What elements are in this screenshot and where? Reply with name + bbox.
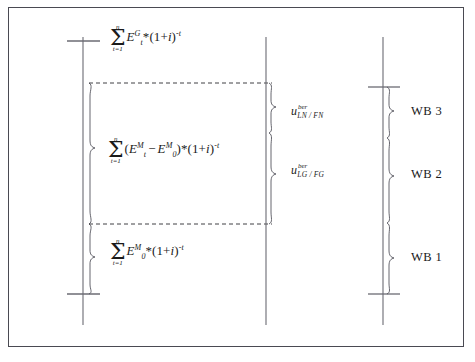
u-subscript: LG / FG [297,170,324,179]
left-brace-lower [89,224,95,294]
term-superscript: M [135,243,142,252]
term2-superscript: M [166,141,173,150]
discount-exponent: -t [214,141,219,150]
left-brace-upper [89,83,95,224]
u-superscript: ber [298,162,307,170]
formula-middle: n Σ t=1 (EMt−EM0)*(1+i)-t [108,136,219,165]
u-label-ln-fn: uberLN / FN [291,104,332,119]
discount-factor-open: *(1+ [143,29,168,44]
minus-operator: − [148,141,155,156]
wb-label-2: WB 2 [411,167,442,182]
sigma-glyph: Σ [110,244,126,260]
diagram-lines [0,0,475,362]
summation-symbol-bottom: n Σ t=1 [110,238,126,267]
summation-symbol-top: n Σ t=1 [110,24,126,53]
wb-label-3: WB 3 [411,104,442,119]
wb-label-1: WB 1 [411,250,442,265]
term-base: E [127,243,135,258]
right-brace-wb1 [387,223,394,294]
term1-superscript: M [137,141,144,150]
formula-top: n Σ t=1 EGt*(1+i)-t [110,24,181,53]
discount-exponent: -t [179,243,184,252]
middle-brace-lower [269,133,276,224]
term-superscript: G [135,29,141,38]
u-superscript: ber [298,103,307,111]
right-brace-wb3 [387,87,394,138]
formula-middle-expression: (EMt−EM0)*(1+i)-t [125,142,220,159]
left-axis-group [67,37,100,325]
discount-factor-open: *(1+ [145,243,170,258]
formula-bottom-expression: EM0*(1+i)-t [127,244,184,261]
formula-bottom: n Σ t=1 EM0*(1+i)-t [110,238,184,267]
sigma-glyph: Σ [110,30,126,46]
sigma-glyph: Σ [108,142,124,158]
u-subscript: LN / FN [297,111,323,120]
u-label-lg-fg: uberLG / FG [291,163,333,178]
term2-base: E [158,141,166,156]
figure-canvas: n Σ t=1 EGt*(1+i)-t n Σ t=1 (EMt−EM0)*(1… [0,0,475,362]
discount-factor-open: *(1+ [181,141,206,156]
term1-subscript: t [144,150,146,159]
discount-exponent: -t [176,29,181,38]
middle-brace-upper [269,83,276,133]
right-brace-wb2 [387,138,394,223]
summation-symbol-middle: n Σ t=1 [108,136,124,165]
formula-top-expression: EGt*(1+i)-t [127,30,182,47]
term1-base: E [129,141,137,156]
right-axis-group [368,37,400,325]
term-base: E [127,29,135,44]
